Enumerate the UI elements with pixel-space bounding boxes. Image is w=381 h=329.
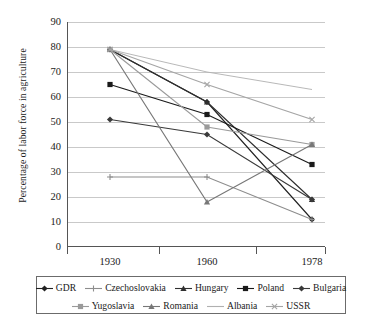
legend-label-gdr: GDR [56, 283, 76, 293]
series-czechoslovakia [107, 174, 315, 223]
legend-item-ussr[interactable]: USSR [266, 301, 310, 311]
series-yugoslavia [107, 47, 314, 147]
chart-legend: GDRCzechoslovakiaHungaryPolandBulgaria Y… [36, 276, 346, 314]
legend-item-czechoslovakia[interactable]: Czechoslovakia [85, 283, 166, 293]
legend-label-romania: Romania [163, 301, 198, 311]
legend-item-albania[interactable]: Albania [207, 301, 257, 311]
legend-marker-gdr [36, 284, 53, 293]
legend-row-1: GDRCzechoslovakiaHungaryPolandBulgaria [37, 277, 345, 297]
legend-label-hungary: Hungary [195, 283, 229, 293]
legend-item-yugoslavia[interactable]: Yugoslavia [72, 301, 135, 311]
legend-row-2: YugoslaviaRomaniaAlbaniaUSSR [37, 297, 345, 315]
legend-label-czechoslovakia: Czechoslovakia [105, 283, 166, 293]
legend-marker-romania [143, 302, 160, 311]
legend-marker-yugoslavia [72, 302, 89, 311]
legend-marker-poland [237, 284, 254, 293]
legend-item-bulgaria[interactable]: Bulgaria [293, 283, 346, 293]
legend-marker-czechoslovakia [85, 284, 102, 293]
legend-item-poland[interactable]: Poland [237, 283, 284, 293]
series-albania [110, 50, 312, 90]
legend-item-romania[interactable]: Romania [143, 301, 198, 311]
series-romania [107, 46, 315, 204]
legend-label-bulgaria: Bulgaria [313, 283, 346, 293]
legend-label-albania: Albania [227, 301, 257, 311]
legend-marker-ussr [266, 302, 283, 311]
legend-marker-hungary [175, 284, 192, 293]
legend-label-yugoslavia: Yugoslavia [92, 301, 135, 311]
legend-marker-albania [207, 302, 224, 311]
legend-label-poland: Poland [257, 283, 284, 293]
legend-label-ussr: USSR [286, 301, 310, 311]
chart-figure: Percentage of labor force in agriculture… [0, 0, 381, 329]
legend-item-gdr[interactable]: GDR [36, 283, 76, 293]
legend-marker-bulgaria [293, 284, 310, 293]
legend-item-hungary[interactable]: Hungary [175, 283, 229, 293]
